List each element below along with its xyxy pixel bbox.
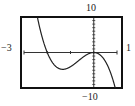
axes	[24, 18, 117, 87]
graph-window	[0, 0, 135, 106]
